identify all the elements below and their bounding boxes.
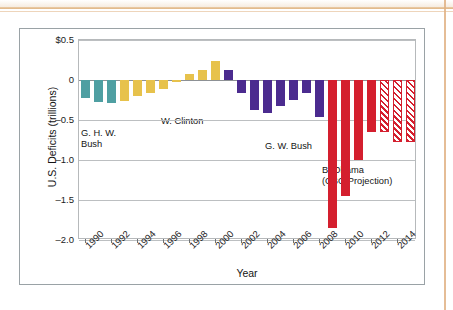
bar-2008: [315, 80, 323, 117]
bar-1990: [81, 80, 89, 98]
page-right-margin-rule: [444, 0, 446, 310]
annotation-clinton: W. Clinton: [161, 116, 203, 127]
bar-2002: [237, 80, 245, 93]
bar-2009: [328, 80, 336, 228]
gridline-neg0p5: [79, 120, 415, 121]
y-axis-tick-labels: $0.50–0.5–1.0–1.5–2.0: [20, 39, 74, 239]
bar-2012: [367, 80, 375, 132]
gridline-0p5: [79, 40, 415, 41]
bar-1999: [198, 70, 206, 80]
annotation-ghw-bush-line2: Bush: [81, 139, 102, 149]
annotation-ghw-bush: G. H. W. Bush: [81, 128, 116, 151]
bar-2015: [406, 80, 414, 142]
bar-2010: [341, 80, 349, 196]
y-tick-label: 0: [69, 74, 74, 85]
x-axis-title: Year: [78, 267, 416, 279]
bar-2013: [380, 80, 388, 132]
bar-2011: [354, 80, 362, 160]
page-top-rule-secondary: [0, 11, 453, 12]
annotation-gw-bush: G. W. Bush: [265, 141, 312, 152]
bar-1994: [133, 80, 141, 96]
plot-area: G. H. W. Bush W. Clinton G. W. Bush B. O…: [78, 39, 416, 239]
gridline-neg1: [79, 160, 415, 161]
bar-1992: [107, 80, 115, 103]
bar-1993: [120, 80, 128, 101]
bar-1995: [146, 80, 154, 93]
gridline-0: [79, 80, 415, 81]
annotation-ghw-bush-line1: G. H. W.: [81, 128, 116, 138]
bar-1998: [185, 74, 193, 80]
page-top-band: [0, 0, 453, 7]
bar-2014: [393, 80, 401, 142]
y-tick-label: –1.5: [56, 194, 75, 205]
bar-2007: [302, 80, 310, 93]
bar-1991: [94, 80, 102, 102]
y-tick-label: $0.5: [56, 34, 75, 45]
bar-2005: [276, 80, 284, 106]
bar-2004: [263, 80, 271, 113]
annotation-gw-bush-line1: G. W. Bush: [265, 141, 312, 151]
bar-2003: [250, 80, 258, 110]
chart-figure: U.S. Deficits (trillions) $0.50–0.5–1.0–…: [19, 28, 425, 285]
y-tick-label: –2.0: [56, 234, 75, 245]
bar-2001: [224, 70, 232, 80]
annotation-clinton-line1: W. Clinton: [161, 116, 203, 126]
y-tick-label: –0.5: [56, 114, 75, 125]
gridline-neg1p5: [79, 200, 415, 201]
y-tick-label: –1.0: [56, 154, 75, 165]
page-top-rule: [0, 7, 453, 9]
bar-2006: [289, 80, 297, 100]
bar-1996: [159, 80, 167, 89]
bar-2000: [211, 61, 219, 80]
bar-1997: [172, 80, 180, 82]
